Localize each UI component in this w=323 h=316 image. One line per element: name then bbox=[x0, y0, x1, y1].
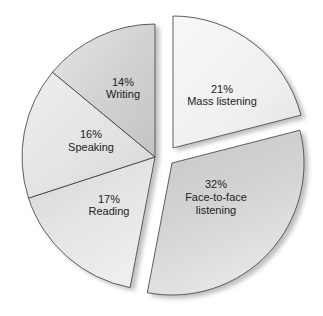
mass-listening-label: Mass listening bbox=[187, 95, 257, 107]
pie-chart: 21% Mass listening 32% Face-to-face list… bbox=[0, 0, 323, 316]
writing-percent: 14% bbox=[112, 76, 134, 88]
face-to-face-percent: 32% bbox=[205, 178, 227, 190]
pie-chart-svg: 21% Mass listening 32% Face-to-face list… bbox=[0, 0, 323, 316]
reading-percent: 17% bbox=[98, 193, 120, 205]
face-to-face-label-line1: Face-to-face bbox=[185, 191, 247, 203]
reading-label: Reading bbox=[89, 205, 130, 217]
mass-listening-percent: 21% bbox=[211, 83, 233, 95]
writing-label: Writing bbox=[106, 88, 140, 100]
slice-mass-listening bbox=[173, 16, 301, 148]
mass-listening-group bbox=[173, 16, 301, 148]
speaking-label: Speaking bbox=[68, 141, 114, 153]
left-slice-group bbox=[22, 24, 155, 288]
face-to-face-label-line2: listening bbox=[196, 204, 236, 216]
speaking-percent: 16% bbox=[80, 128, 102, 140]
